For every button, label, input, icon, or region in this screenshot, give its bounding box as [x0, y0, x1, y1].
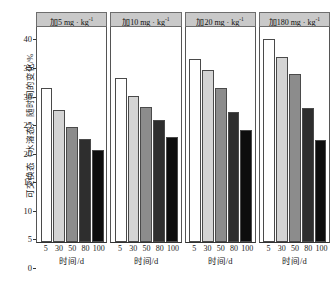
plot-area — [110, 27, 181, 243]
chart-panel: 加180 mg · kg-15305080100时间/d — [259, 12, 330, 268]
x-axis-tick-label: 100 — [315, 243, 328, 254]
x-axis-tick-label: 50 — [66, 243, 79, 254]
y-axis-tick-label: 5 — [28, 235, 32, 244]
panel-header-label: 加10 mg · kg — [122, 18, 165, 27]
x-axis-tick-label: 80 — [302, 243, 315, 254]
y-axis-tick-label: 10 — [24, 207, 33, 216]
bar — [215, 88, 227, 242]
x-axis-tick-label: 30 — [52, 243, 65, 254]
chart-panel: 加5 mg · kg-15305080100时间/d — [36, 12, 107, 268]
x-axis-tick-label: 50 — [288, 243, 301, 254]
panel-header-label: 加180 mg · kg — [269, 18, 316, 27]
bar — [153, 120, 165, 242]
x-axis-tick-label: 5 — [113, 243, 126, 254]
x-axis-ticks: 5305080100 — [36, 243, 107, 254]
bar — [315, 140, 327, 242]
panel-header-exponent: -1 — [89, 16, 94, 22]
y-axis: 0510152025303540 — [14, 28, 36, 268]
y-axis-tick-mark — [33, 268, 36, 269]
x-axis-ticks: 5305080100 — [185, 243, 256, 254]
y-axis-tick-label: 15 — [24, 178, 33, 187]
y-axis-tick-label: 35 — [24, 64, 33, 73]
bar — [92, 150, 104, 242]
bar — [202, 70, 214, 242]
y-axis-tick-label: 30 — [24, 92, 33, 101]
x-axis-ticks: 5305080100 — [259, 243, 330, 254]
bar — [240, 130, 252, 242]
bar — [289, 74, 301, 242]
chart-figure: 可交换态（水溶态）随时间的变化/% 0510152025303540 加5 mg… — [0, 0, 335, 303]
chart-panel: 加20 mg · kg-15305080100时间/d — [185, 12, 256, 268]
chart-panel: 加10 mg · kg-15305080100时间/d — [110, 12, 181, 268]
y-axis-tick-label: 20 — [24, 149, 33, 158]
x-axis-tick-label: 30 — [275, 243, 288, 254]
x-axis-title: 时间/d — [36, 254, 107, 268]
plot-area — [185, 27, 256, 243]
x-axis-tick-label: 5 — [188, 243, 201, 254]
panel-header: 加20 mg · kg-1 — [185, 12, 256, 27]
x-axis-tick-label: 30 — [201, 243, 214, 254]
x-axis-title: 时间/d — [259, 254, 330, 268]
bar — [302, 108, 314, 242]
x-axis-tick-label: 100 — [92, 243, 105, 254]
bar — [66, 127, 78, 242]
x-axis-tick-label: 100 — [241, 243, 254, 254]
x-axis-title: 时间/d — [185, 254, 256, 268]
bar — [189, 59, 201, 242]
panel-header-label: 加5 mg · kg — [50, 18, 89, 27]
bar-group — [37, 27, 106, 242]
plot-area — [36, 27, 107, 243]
x-axis-tick-label: 100 — [166, 243, 179, 254]
y-axis-tick-label: 0 — [28, 264, 32, 273]
bar-group — [186, 27, 255, 242]
bar — [276, 57, 288, 242]
panel-header: 加180 mg · kg-1 — [259, 12, 330, 27]
bar — [228, 112, 240, 242]
bar — [41, 88, 53, 242]
bar — [128, 96, 140, 242]
panel-header-exponent: -1 — [239, 16, 244, 22]
x-axis-tick-label: 5 — [262, 243, 275, 254]
bar-group — [260, 27, 329, 242]
x-axis-tick-label: 80 — [79, 243, 92, 254]
bar — [140, 107, 152, 242]
y-axis-tick-label: 25 — [24, 121, 33, 130]
bar — [166, 137, 178, 242]
x-axis-tick-label: 30 — [127, 243, 140, 254]
bar — [79, 139, 91, 242]
x-axis-tick-label: 5 — [39, 243, 52, 254]
bar-group — [111, 27, 180, 242]
plot-area — [259, 27, 330, 243]
panel-header: 加5 mg · kg-1 — [36, 12, 107, 27]
x-axis-title: 时间/d — [110, 254, 181, 268]
panel-header-label: 加20 mg · kg — [196, 18, 239, 27]
bar — [115, 78, 127, 242]
bar — [263, 39, 275, 242]
x-axis-ticks: 5305080100 — [110, 243, 181, 254]
panel-row: 加5 mg · kg-15305080100时间/d加10 mg · kg-15… — [36, 12, 330, 268]
bar — [53, 110, 65, 242]
panel-header-exponent: -1 — [316, 16, 321, 22]
panel-header-exponent: -1 — [165, 16, 170, 22]
x-axis-tick-label: 80 — [153, 243, 166, 254]
y-axis-tick-label: 40 — [24, 35, 33, 44]
x-axis-tick-label: 80 — [227, 243, 240, 254]
x-axis-tick-label: 50 — [214, 243, 227, 254]
panel-header: 加10 mg · kg-1 — [110, 12, 181, 27]
x-axis-tick-label: 50 — [140, 243, 153, 254]
